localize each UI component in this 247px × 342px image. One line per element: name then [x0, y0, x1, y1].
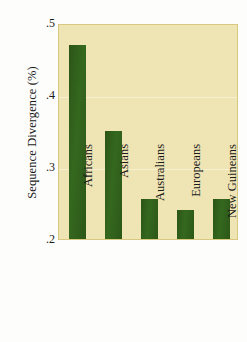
gridline [59, 97, 237, 98]
x-axis-tick-label: Europeans [189, 144, 204, 244]
y-axis-tick-label: .2 [33, 232, 55, 247]
x-axis-tick-label: Australians [153, 144, 168, 244]
y-axis-tick-label: .3 [33, 160, 55, 175]
bar-chart-figure: Sequence Divergence (%) .5.4.3.2 African… [0, 0, 247, 342]
y-axis-tick-labels: .5.4.3.2 [33, 0, 55, 342]
x-axis-tick-label: New Guineans [225, 144, 240, 244]
y-axis-tick-label: .4 [33, 88, 55, 103]
x-axis-tick-label: Asians [117, 144, 132, 244]
y-axis-tick-label: .5 [33, 16, 55, 31]
x-axis-tick-labels: AfricansAsiansAustraliansEuropeansNew Gu… [58, 240, 238, 342]
x-axis-tick-label: Africans [81, 144, 96, 244]
